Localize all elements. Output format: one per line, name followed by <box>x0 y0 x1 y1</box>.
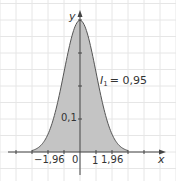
y-axis-label: y <box>68 10 76 23</box>
annotation-subscript: 1 <box>103 80 107 88</box>
annotation: I1= 0,95 <box>100 74 147 88</box>
x-tick-label-neg-196: −1,96 <box>34 154 65 165</box>
x-tick-label-pos-196: 1,96 <box>101 154 123 165</box>
origin-label: 0 <box>72 154 78 165</box>
normal-distribution-chart: y x 0 1 −1,96 1,96 0,1 I1= 0,95 <box>0 0 176 181</box>
x-axis-label: x <box>157 153 165 166</box>
x-tick-label-1: 1 <box>92 155 98 166</box>
annotation-value: = 0,95 <box>110 74 147 87</box>
y-tick-label-01: 0,1 <box>61 112 77 123</box>
